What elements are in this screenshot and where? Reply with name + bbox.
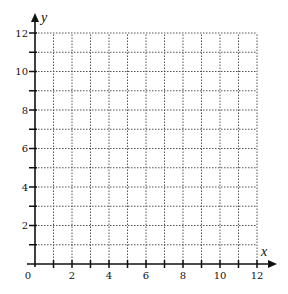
origin-label: 0 [25,270,31,281]
y-tick-label: 8 [22,105,28,116]
x-tick-label: 4 [106,270,112,281]
coordinate-grid-chart: 2468101224681012 x y 0 [0,0,288,294]
axis-ticks [29,33,257,268]
y-tick-label: 4 [22,182,28,193]
y-axis-label: y [39,10,48,25]
x-tick-label: 10 [214,270,227,281]
x-tick-label: 8 [180,270,186,281]
x-tick-label: 2 [69,270,75,281]
grid-lines [35,33,257,264]
y-tick-label: 10 [15,66,28,77]
axes [27,13,277,268]
x-tick-label: 12 [251,270,264,281]
tick-labels: 2468101224681012 [15,28,263,282]
y-tick-label: 2 [22,220,28,231]
x-tick-label: 6 [143,270,149,281]
y-tick-label: 12 [15,28,28,39]
y-tick-label: 6 [22,143,28,154]
x-axis-label: x [260,244,268,259]
y-axis-arrow-icon [31,13,39,22]
x-axis-arrow-icon [268,260,277,268]
